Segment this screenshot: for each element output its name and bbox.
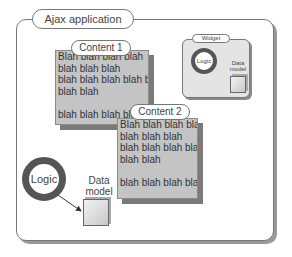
widget-data-model-label-line2: model: [227, 66, 249, 72]
widget-logic-ring-icon: Logic: [191, 48, 217, 74]
content-2-line: blah blah: [120, 154, 197, 166]
content-2-line: blah blah blah blah blah: [120, 142, 197, 154]
data-model-cube-icon: [83, 199, 109, 226]
content-1-label: Content 1: [71, 40, 131, 56]
content-2-line: blah blah blah blah: [120, 177, 197, 189]
widget-data-model-label: Data model: [227, 60, 249, 72]
content-2-line: [120, 165, 197, 177]
data-model-label: Data model: [84, 175, 114, 197]
widget-title: Widget: [192, 34, 230, 43]
app-title: Ajax application: [32, 9, 134, 29]
content-2-line: Blah blah blah blah: [120, 119, 197, 131]
content-2-box: Blah blah blah blah blah blah blah blah …: [117, 118, 198, 199]
logic-ring-icon: Logic: [22, 157, 66, 201]
content-1-line: blah blah blah: [58, 63, 148, 75]
content-1-line: blah blah: [58, 86, 148, 98]
widget-data-model-cube-icon: [230, 76, 246, 93]
data-model-label-line1: Data: [84, 175, 114, 186]
data-model-label-line2: model: [84, 186, 114, 197]
content-1-line: blah blah blah blah blah: [58, 74, 148, 86]
content-2-line: blah blah blah: [120, 131, 197, 143]
content-2-label: Content 2: [130, 104, 190, 120]
